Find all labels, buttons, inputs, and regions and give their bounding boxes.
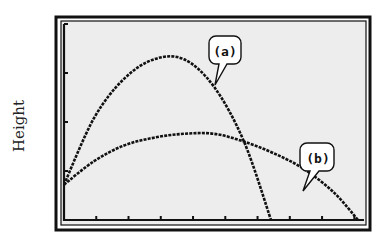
callout-b-label: (b) [306, 151, 329, 166]
callout-a-label: (a) [213, 44, 236, 59]
calculator-graph: (a) (b) [0, 0, 376, 249]
